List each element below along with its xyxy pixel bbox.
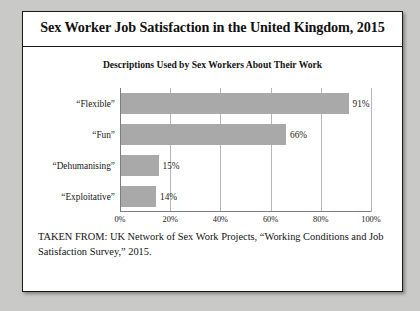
- x-tick-label: 40%: [213, 215, 228, 224]
- x-tick-label: 60%: [263, 215, 278, 224]
- title-block: Sex Worker Job Satisfaction in the Unite…: [23, 12, 402, 47]
- bar-value-label: 91%: [349, 99, 370, 109]
- bar-row: “Exploitative”14%: [121, 181, 371, 212]
- gridline: [371, 88, 372, 212]
- bar-value-label: 66%: [286, 130, 307, 140]
- category-label: “Dehumanising”: [53, 161, 115, 171]
- category-label: “Exploitative”: [61, 192, 115, 202]
- x-tick-label: 80%: [313, 215, 328, 224]
- bar: [121, 124, 286, 145]
- figure-card: Sex Worker Job Satisfaction in the Unite…: [22, 11, 403, 292]
- figure-title: Sex Worker Job Satisfaction in the Unite…: [23, 19, 402, 36]
- plot-frame: “Flexible”91%“Fun”66%“Dehumanising”15%“E…: [120, 88, 371, 212]
- x-tick-label: 100%: [361, 215, 381, 224]
- bar: [121, 93, 349, 114]
- bar-row: “Flexible”91%: [121, 88, 371, 119]
- bar-row: “Dehumanising”15%: [121, 150, 371, 181]
- bar: [121, 186, 156, 207]
- x-tick-label: 0%: [114, 215, 125, 224]
- source-caption: TAKEN FROM: UK Network of Sex Work Proje…: [38, 230, 388, 260]
- bar-chart-plot: “Flexible”91%“Fun”66%“Dehumanising”15%“E…: [120, 88, 371, 212]
- category-label: “Flexible”: [76, 99, 115, 109]
- category-label: “Fun”: [92, 130, 115, 140]
- x-tick-label: 20%: [163, 215, 178, 224]
- bar-value-label: 15%: [159, 161, 180, 171]
- bar-value-label: 14%: [156, 192, 177, 202]
- bar-row: “Fun”66%: [121, 119, 371, 150]
- chart-subtitle: Descriptions Used by Sex Workers About T…: [23, 59, 402, 70]
- bar: [121, 155, 159, 176]
- title-divider: [23, 46, 402, 47]
